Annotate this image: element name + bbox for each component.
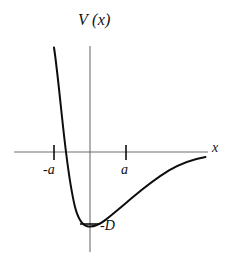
potential-curve bbox=[54, 48, 206, 227]
x-axis-label: x bbox=[212, 141, 218, 155]
potential-energy-figure: V (x) x -a a -D bbox=[0, 0, 234, 268]
y-axis-title: V (x) bbox=[78, 12, 111, 28]
minimum-value-label: -D bbox=[100, 219, 115, 233]
plot-canvas bbox=[0, 0, 234, 268]
tick-label-negative-a: -a bbox=[43, 163, 55, 177]
tick-label-positive-a: a bbox=[121, 163, 128, 177]
